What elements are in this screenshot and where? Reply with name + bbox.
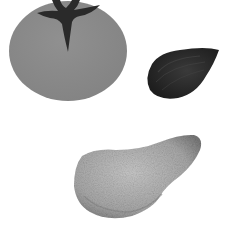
illustration-canvas: Grayscale illustration of three objects …	[0, 0, 230, 242]
oyster	[74, 135, 201, 218]
tomato	[9, 0, 127, 101]
mussel	[147, 48, 219, 99]
